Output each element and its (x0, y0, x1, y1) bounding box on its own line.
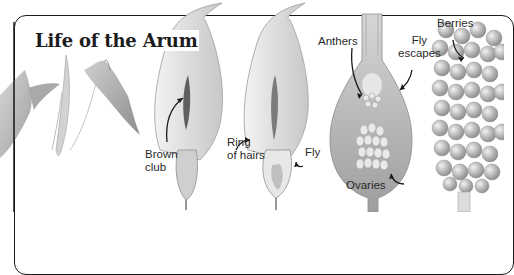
label-brown-club: Brown club (145, 148, 178, 174)
label-ovaries: Ovaries (346, 179, 386, 192)
berry-spike-stage (432, 22, 504, 212)
label-anthers: Anthers (318, 35, 358, 48)
leaves-stage (0, 55, 140, 158)
label-ring-of-hairs: Ring of hairs (227, 136, 265, 162)
spathe-section-stage (244, 3, 308, 210)
label-fly: Fly (305, 146, 320, 159)
label-fly-escapes: Fly escapes (398, 34, 441, 60)
page-title: Life of the Arum (35, 30, 199, 51)
label-berries: Berries (437, 17, 473, 30)
